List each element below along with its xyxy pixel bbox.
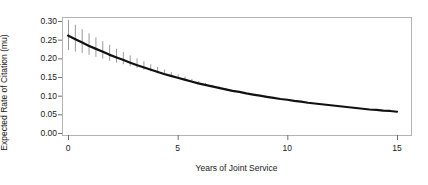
- y-axis-title: Expected Rate of Citation (mu): [0, 0, 14, 185]
- data-line: [68, 36, 397, 112]
- x-tick-label: 5: [163, 144, 193, 153]
- y-tick-label: 0.00: [24, 129, 57, 138]
- x-tick-label: 15: [382, 144, 412, 153]
- x-tick-label: 0: [53, 144, 83, 153]
- expected-rate-curve: [68, 36, 397, 112]
- y-tick-label: 0.15: [24, 73, 57, 82]
- y-tick-label: 0.10: [24, 92, 57, 101]
- y-tick-label: 0.20: [24, 54, 57, 63]
- y-tick-label: 0.05: [24, 110, 57, 119]
- chart-figure: Expected Rate of Citation (mu) Years of …: [0, 0, 428, 185]
- axis-frame: [63, 18, 412, 136]
- error-bars: [69, 20, 398, 112]
- y-tick-label: 0.30: [24, 17, 57, 26]
- tick-marks: [58, 22, 398, 141]
- x-tick-label: 10: [272, 144, 302, 153]
- x-axis-title: Years of Joint Service: [62, 164, 411, 173]
- y-tick-label: 0.25: [24, 36, 57, 45]
- plot-canvas: [0, 0, 428, 185]
